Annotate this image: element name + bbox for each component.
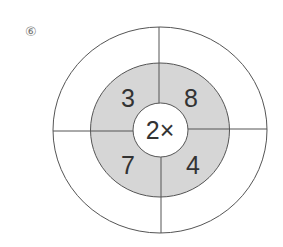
ring-number-bottom-left: 7 xyxy=(121,151,135,179)
center-multiplier: 2× xyxy=(146,116,175,144)
ring-number-top-left: 3 xyxy=(121,84,135,112)
ring-number-bottom-right: 4 xyxy=(186,151,200,179)
multiplication-wheel-diagram: 2× 3 8 7 4 xyxy=(0,0,283,247)
ring-number-top-right: 8 xyxy=(184,84,198,112)
